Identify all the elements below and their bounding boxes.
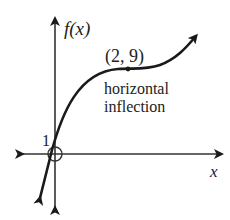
x-axis-label: x [209,162,218,181]
annotation-line-1: horizontal [104,80,169,97]
y-intercept-label: 1 [42,132,50,149]
y-axis-label: f(x) [64,18,90,40]
annotation-line-2: inflection [104,98,165,115]
inflection-point [126,67,131,72]
inflection-point-label: (2, 9) [105,46,144,67]
function-graph: f(x) x 1 (2, 9) horizontal inflection [0,0,230,220]
